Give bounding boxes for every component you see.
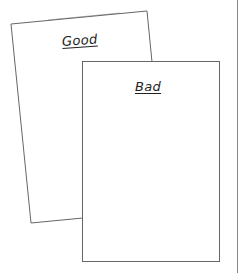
bad-card-label: Bad — [135, 79, 161, 94]
diagram-canvas: Good Bad — [0, 0, 240, 273]
good-card-label: Good — [61, 32, 97, 49]
cards-drawing — [0, 0, 240, 273]
